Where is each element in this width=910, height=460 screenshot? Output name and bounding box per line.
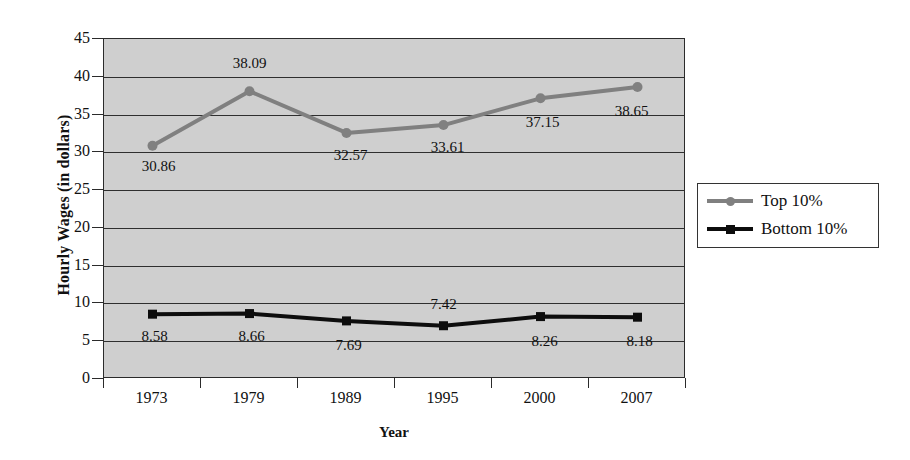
series-marker-square — [633, 313, 642, 322]
y-axis-tick-mark — [92, 76, 103, 77]
y-axis-tick-mark — [92, 38, 103, 39]
legend-marker-icon — [707, 194, 753, 208]
data-point-label: 8.66 — [238, 328, 264, 345]
data-point-label: 30.86 — [142, 158, 176, 175]
y-axis-tick-labels: 051015202530354045 — [50, 38, 90, 378]
legend-item-label: Bottom 10% — [761, 219, 847, 239]
x-axis-tick-mark — [200, 378, 201, 388]
data-point-label: 8.58 — [141, 328, 167, 345]
x-axis-tick-mark — [588, 378, 589, 388]
series-marker-circle — [148, 141, 158, 151]
series-marker-circle — [439, 120, 449, 130]
y-axis-tick-label: 25 — [56, 180, 90, 198]
series-marker-circle — [245, 86, 255, 96]
y-axis-tick-label: 40 — [56, 67, 90, 85]
data-point-label: 37.15 — [526, 114, 560, 131]
data-point-label: 7.69 — [335, 337, 361, 354]
y-axis-tick-marks — [92, 38, 103, 378]
y-axis-tick-label: 45 — [56, 29, 90, 47]
y-axis-tick-label: 20 — [56, 218, 90, 236]
x-axis-tick-mark — [685, 378, 686, 388]
series-marker-square — [148, 310, 157, 319]
legend-item[interactable]: Bottom 10% — [707, 215, 847, 243]
data-point-label: 38.09 — [233, 55, 267, 72]
series-marker-circle — [342, 128, 352, 138]
x-axis-tick-label: 2007 — [597, 389, 677, 407]
x-axis-tick-mark — [103, 378, 104, 388]
series-marker-square — [536, 312, 545, 321]
legend-marker-icon — [707, 222, 753, 236]
y-axis-tick-label: 0 — [56, 369, 90, 387]
y-axis-tick-mark — [92, 189, 103, 190]
series-line — [153, 87, 638, 146]
x-axis-tick-mark — [297, 378, 298, 388]
data-point-label: 32.57 — [334, 147, 368, 164]
y-axis-tick-label: 30 — [56, 142, 90, 160]
data-point-label: 33.61 — [431, 139, 465, 156]
x-axis-tick-labels: 197319791989199520002007 — [103, 389, 685, 415]
x-axis-tick-mark — [394, 378, 395, 388]
series-marker-circle — [633, 82, 643, 92]
y-axis-tick-label: 10 — [56, 293, 90, 311]
x-axis-tick-marks — [103, 378, 685, 388]
legend-item[interactable]: Top 10% — [707, 187, 823, 215]
series-layer — [104, 39, 686, 379]
y-axis-tick-mark — [92, 151, 103, 152]
data-point-label: 7.42 — [430, 296, 456, 313]
y-axis-tick-mark — [92, 227, 103, 228]
series-marker-square — [342, 316, 351, 325]
plot-area: 30.8638.0932.5733.6137.1538.658.588.667.… — [103, 38, 685, 378]
chart-legend: Top 10%Bottom 10% — [697, 183, 879, 248]
data-point-label: 38.65 — [615, 103, 649, 120]
y-axis-tick-label: 5 — [56, 331, 90, 349]
y-axis-tick-label: 35 — [56, 105, 90, 123]
y-axis-tick-mark — [92, 114, 103, 115]
y-axis-tick-mark — [92, 340, 103, 341]
x-axis-tick-label: 1989 — [306, 389, 386, 407]
series-line — [153, 314, 638, 326]
series-marker-circle — [536, 93, 546, 103]
x-axis-tick-label: 1995 — [403, 389, 483, 407]
x-axis-tick-label: 1979 — [209, 389, 289, 407]
y-axis-tick-mark — [92, 265, 103, 266]
data-point-label: 8.18 — [626, 333, 652, 350]
series-marker-square — [439, 321, 448, 330]
y-axis-tick-label: 15 — [56, 256, 90, 274]
y-axis-tick-mark — [92, 378, 103, 379]
data-point-label: 8.26 — [531, 333, 557, 350]
y-axis-tick-mark — [92, 302, 103, 303]
chart-figure: Hourly Wages (in dollars) 05101520253035… — [0, 0, 910, 460]
x-axis-tick-label: 1973 — [112, 389, 192, 407]
x-axis-tick-mark — [491, 378, 492, 388]
legend-item-label: Top 10% — [761, 191, 823, 211]
x-axis-tick-label: 2000 — [500, 389, 580, 407]
x-axis-title: Year — [103, 424, 685, 441]
series-marker-square — [245, 309, 254, 318]
